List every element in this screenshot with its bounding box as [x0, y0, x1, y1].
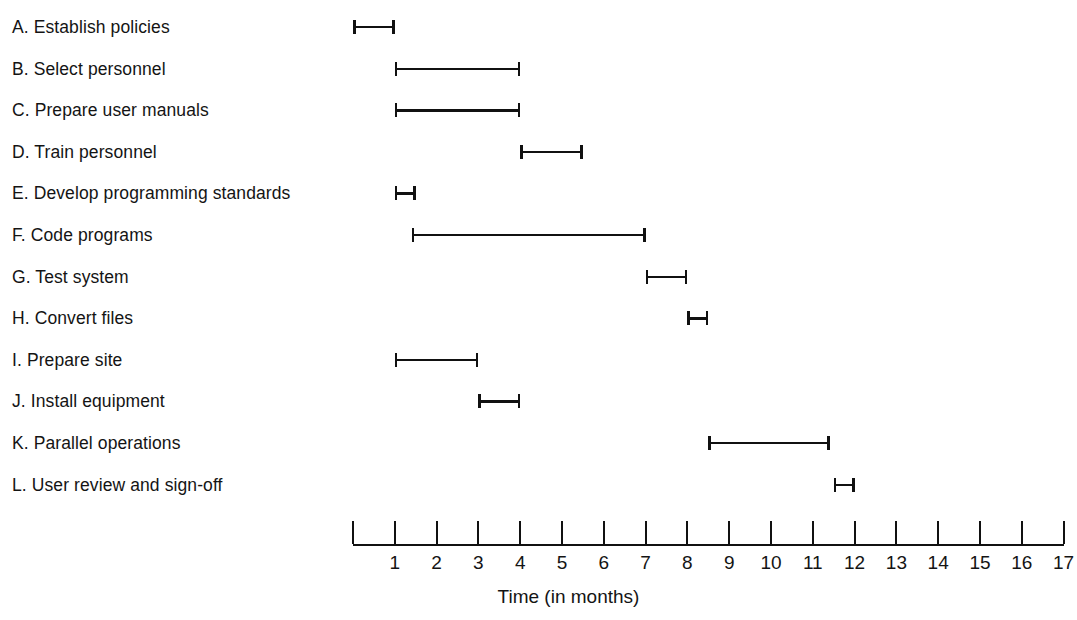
task-row: F. Code programs	[0, 220, 1077, 250]
axis-tick	[436, 521, 438, 544]
task-bar-start-cap	[834, 478, 837, 492]
axis-tick	[394, 521, 396, 544]
axis-tick-label: 8	[682, 553, 693, 572]
task-bar-line	[412, 234, 646, 236]
task-bar	[353, 20, 395, 34]
axis-tick	[979, 521, 981, 544]
task-bar-line	[708, 442, 829, 444]
task-label: H. Convert files	[12, 303, 133, 333]
task-bar	[708, 436, 829, 450]
task-bar	[395, 353, 479, 367]
axis-tick	[477, 521, 479, 544]
task-label: L. User review and sign-off	[12, 470, 223, 500]
task-bar-start-cap	[353, 20, 356, 34]
task-bar-end-cap	[643, 228, 646, 242]
task-bar-start-cap	[395, 62, 398, 76]
task-bar-start-cap	[478, 394, 481, 408]
axis-tick	[895, 521, 897, 544]
task-row: D. Train personnel	[0, 137, 1077, 167]
task-bar-line	[395, 68, 520, 70]
axis-tick-label: 7	[640, 553, 651, 572]
axis-tick-label: 6	[599, 553, 610, 572]
task-label: I. Prepare site	[12, 345, 122, 375]
task-label: J. Install equipment	[12, 386, 165, 416]
axis-tick	[812, 521, 814, 544]
task-label: B. Select personnel	[12, 54, 166, 84]
task-row: J. Install equipment	[0, 386, 1077, 416]
axis-tick	[770, 521, 772, 544]
task-bar	[646, 270, 688, 284]
task-bar	[395, 186, 416, 200]
task-bar-end-cap	[518, 62, 521, 76]
task-bar-start-cap	[708, 436, 711, 450]
axis-tick	[1063, 521, 1065, 544]
task-bar	[412, 228, 646, 242]
task-bar-end-cap	[827, 436, 830, 450]
axis-tick	[645, 521, 647, 544]
x-axis-title: Time (in months)	[0, 586, 1077, 608]
task-bar-start-cap	[395, 103, 398, 117]
task-bar	[395, 103, 520, 117]
axis-tick-label: 17	[1053, 553, 1074, 572]
axis-tick	[603, 521, 605, 544]
task-bar-line	[395, 359, 479, 361]
task-label: A. Establish policies	[12, 12, 170, 42]
axis-tick	[1021, 521, 1023, 544]
axis-tick-label: 14	[928, 553, 949, 572]
task-label: F. Code programs	[12, 220, 153, 250]
task-bar	[687, 311, 708, 325]
axis-tick	[519, 521, 521, 544]
task-label: E. Develop programming standards	[12, 178, 290, 208]
gantt-chart: A. Establish policiesB. Select personnel…	[0, 0, 1077, 620]
task-label: G. Test system	[12, 262, 129, 292]
task-row: A. Establish policies	[0, 12, 1077, 42]
task-bar-end-cap	[685, 270, 688, 284]
task-bar-start-cap	[520, 145, 523, 159]
task-row: G. Test system	[0, 262, 1077, 292]
task-row: H. Convert files	[0, 303, 1077, 333]
axis-tick	[854, 521, 856, 544]
task-bar-line	[520, 151, 583, 153]
task-bar-end-cap	[852, 478, 855, 492]
task-bar	[834, 478, 855, 492]
task-row: C. Prepare user manuals	[0, 95, 1077, 125]
task-bar-end-cap	[706, 311, 709, 325]
task-row: E. Develop programming standards	[0, 178, 1077, 208]
axis-tick	[561, 521, 563, 544]
axis-tick-label: 13	[886, 553, 907, 572]
axis-tick-label: 1	[390, 553, 401, 572]
task-row: I. Prepare site	[0, 345, 1077, 375]
task-bar-end-cap	[413, 186, 416, 200]
axis-tick	[937, 521, 939, 544]
task-bar-end-cap	[518, 103, 521, 117]
task-label: D. Train personnel	[12, 137, 157, 167]
axis-tick-label: 11	[803, 553, 823, 572]
task-bar-start-cap	[395, 186, 398, 200]
task-bar-end-cap	[392, 20, 395, 34]
task-bar-start-cap	[687, 311, 690, 325]
task-bar-line	[353, 26, 395, 28]
axis-tick-label: 5	[557, 553, 568, 572]
axis-tick-label: 10	[760, 553, 781, 572]
axis-tick-label: 9	[724, 553, 735, 572]
task-bar	[520, 145, 583, 159]
axis-tick-label: 16	[1011, 553, 1032, 572]
axis-tick-label: 15	[969, 553, 990, 572]
task-bar-end-cap	[476, 353, 479, 367]
task-row: K. Parallel operations	[0, 428, 1077, 458]
axis-tick-label: 4	[515, 553, 526, 572]
task-bar-start-cap	[412, 228, 415, 242]
task-row: B. Select personnel	[0, 54, 1077, 84]
task-bar-start-cap	[646, 270, 649, 284]
axis-tick	[352, 521, 354, 544]
axis-tick-label: 2	[431, 553, 442, 572]
axis-tick	[728, 521, 730, 544]
task-bar-line	[478, 400, 520, 402]
task-bar-line	[395, 109, 520, 111]
task-bar-end-cap	[518, 394, 521, 408]
task-row: L. User review and sign-off	[0, 470, 1077, 500]
axis-tick-label: 3	[473, 553, 484, 572]
task-bar-end-cap	[580, 145, 583, 159]
axis-baseline	[353, 544, 1064, 546]
task-label: K. Parallel operations	[12, 428, 181, 458]
